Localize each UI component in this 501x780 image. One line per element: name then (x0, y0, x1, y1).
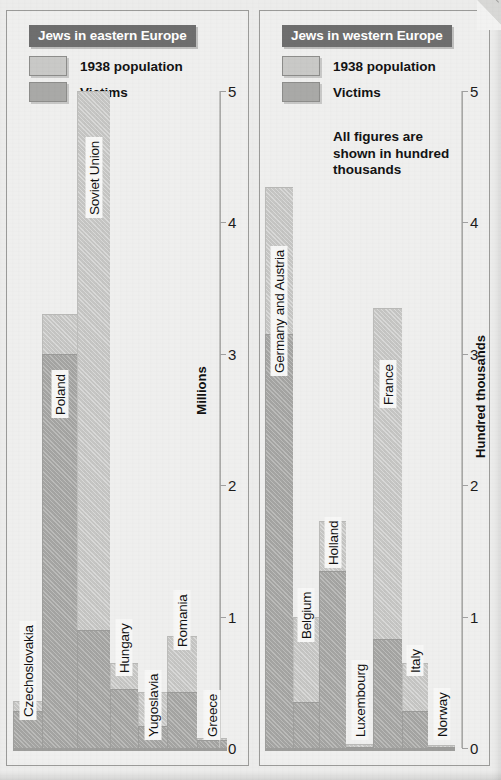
bar-column: Belgium (293, 91, 319, 748)
page-edge-shadow-right (493, 0, 501, 780)
y-axis-tick-label: 0 (228, 740, 236, 757)
y-axis-tick-label: 0 (470, 740, 478, 757)
legend-item-population: 1938 population (29, 53, 183, 79)
panel-title-western: Jews in western Europe (282, 25, 452, 47)
bar-column: Poland (42, 91, 77, 748)
bar-column: Hungary (110, 91, 138, 748)
bar-label: Italy (407, 645, 424, 676)
y-axis-tick-mark (462, 354, 468, 355)
y-axis-tick-mark (220, 617, 226, 618)
y-axis-tick-label: 1 (228, 608, 236, 625)
bar-segment-victims (265, 334, 293, 748)
figure-root: Jews in eastern Europe 1938 population V… (0, 0, 501, 780)
y-axis-western: 012345 (461, 91, 463, 748)
y-axis-tick-label: 2 (470, 477, 478, 494)
bar-segment-victims (402, 711, 428, 748)
y-axis-tick-mark (462, 617, 468, 618)
bar-label: Hungary (116, 619, 133, 676)
bar-label: Germany and Austria (271, 246, 288, 376)
panel-eastern-europe: Jews in eastern Europe 1938 population V… (6, 10, 249, 766)
bar-segment-victims (319, 571, 346, 748)
bar-group-western: Germany and AustriaBelgiumHollandLuxembo… (265, 91, 455, 748)
bar-segment-victims (110, 689, 138, 748)
y-axis-title-eastern: Millions (194, 366, 209, 414)
page-corner-fold (477, 0, 501, 30)
bar-label: France (379, 360, 396, 408)
bar-column: Luxembourg (346, 91, 373, 748)
bar-column: Germany and Austria (265, 91, 293, 748)
bar-column: Holland (319, 91, 346, 748)
bar-group-eastern: CzechoslovakiaPolandSoviet UnionHungaryY… (13, 91, 227, 748)
bar-segment-victims (197, 740, 227, 748)
bar-label: Poland (51, 370, 68, 418)
y-axis-title-western: Hundred thousands (473, 335, 488, 458)
bar-column: France (373, 91, 402, 748)
bar-segment-victims (373, 639, 402, 748)
bar-label: Soviet Union (85, 137, 102, 218)
bar-column: Norway (428, 91, 455, 748)
y-axis-tick-label: 5 (470, 83, 478, 100)
y-axis-tick-label: 1 (470, 608, 478, 625)
bar-column: Czechoslovakia (13, 91, 42, 748)
bar-label: Belgium (298, 588, 315, 642)
bar-label: Romania (174, 590, 191, 650)
bar-column: Romania (167, 91, 197, 748)
legend-label-population: 1938 population (333, 59, 436, 74)
legend-item-population: 1938 population (282, 53, 436, 79)
y-axis-tick-mark (462, 748, 468, 749)
bar-segment-victims (167, 692, 197, 749)
y-axis-eastern: 012345 (219, 91, 221, 748)
y-axis-tick-label: 3 (228, 345, 236, 362)
bar-column: Greece (197, 91, 227, 748)
y-axis-tick-mark (220, 354, 226, 355)
legend-label-population: 1938 population (80, 59, 183, 74)
panel-western-europe: Jews in western Europe 1938 population V… (259, 10, 490, 766)
bar-label: Holland (324, 517, 341, 568)
panel-title-eastern: Jews in eastern Europe (29, 25, 196, 47)
bar-label: Greece (204, 690, 221, 740)
y-axis-tick-label: 5 (228, 83, 236, 100)
bar-label: Czechoslovakia (19, 621, 36, 720)
y-axis-tick-mark (462, 485, 468, 486)
y-axis-tick-label: 4 (228, 214, 236, 231)
y-axis-tick-mark (462, 222, 468, 223)
bar-column: Italy (402, 91, 428, 748)
x-axis-eastern (13, 748, 227, 751)
x-axis-western (265, 748, 455, 751)
bar-segment-victims (293, 702, 319, 748)
y-axis-tick-mark (220, 91, 226, 92)
legend-swatch-population-icon (29, 56, 67, 76)
bar-label: Yugoslavia (144, 670, 161, 740)
bar-column: Yugoslavia (138, 91, 167, 748)
bar-label: Norway (433, 688, 450, 740)
legend-swatch-population-icon (282, 56, 320, 76)
bar-column: Soviet Union (77, 91, 110, 748)
bar-label: Luxembourg (351, 660, 368, 740)
y-axis-tick-label: 2 (228, 477, 236, 494)
bar-segment-victims (77, 630, 110, 748)
page-edge-shadow-bottom (0, 771, 501, 780)
y-axis-tick-mark (462, 91, 468, 92)
y-axis-tick-mark (220, 485, 226, 486)
y-axis-tick-label: 4 (470, 214, 478, 231)
y-axis-tick-mark (220, 222, 226, 223)
